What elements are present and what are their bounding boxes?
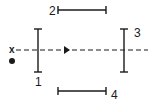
source-x-label: x: [9, 44, 15, 55]
element-4-label: 4: [111, 88, 118, 102]
diagram-canvas: x 1 2 3 4: [0, 0, 154, 104]
element-2-label: 2: [49, 4, 56, 18]
element-2: [58, 6, 106, 14]
element-4: [58, 87, 106, 95]
element-3-label: 3: [134, 26, 141, 40]
element-1-label: 1: [35, 75, 42, 89]
source-dot-icon: [9, 58, 15, 64]
beam-arrow-icon: [64, 46, 70, 54]
